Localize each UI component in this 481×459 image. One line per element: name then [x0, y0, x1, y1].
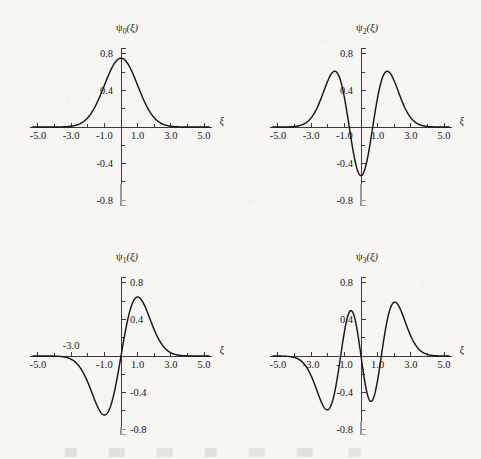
x-axis-label: ξ	[460, 115, 465, 127]
panel-title: ψ1(ξ)	[116, 251, 138, 265]
x-tick-label: -3.0	[63, 340, 80, 351]
x-tick-label: -3.0	[63, 130, 80, 141]
y-tick-label: 0.8	[100, 48, 113, 59]
x-tick-label: 3.0	[404, 130, 417, 141]
plot-panel-psi3: -5.0-3.0-1.01.03.05.0ξ0.80.4-0.4-0.8ψ3(ξ…	[240, 229, 481, 459]
x-tick-label: 3.0	[164, 359, 177, 370]
x-tick-label: 3.0	[164, 130, 177, 141]
x-tick-label: 3.0	[404, 359, 417, 370]
x-tick-label: -1.0	[96, 359, 113, 370]
panel-title: ψ2(ξ)	[356, 22, 378, 36]
x-tick-label: -1.0	[96, 130, 113, 141]
plot-panel-psi1: -5.0-3.0-1.01.03.05.0ξ0.80.4-0.4-0.8ψ1(ξ…	[0, 229, 240, 459]
y-tick-label: -0.4	[336, 158, 353, 169]
x-axis-label: ξ	[220, 344, 225, 356]
x-tick-label: 1.0	[131, 130, 144, 141]
y-tick-label: 0.8	[130, 277, 143, 288]
y-tick-label: -0.4	[130, 387, 147, 398]
x-tick-label: 1.0	[371, 359, 384, 370]
x-tick-label: 5.0	[197, 130, 210, 141]
x-tick-label: -5.0	[270, 130, 287, 141]
x-tick-label: 5.0	[197, 359, 210, 370]
panel-title: ψ0(ξ)	[116, 22, 138, 36]
x-tick-label: -3.0	[303, 130, 320, 141]
y-tick-label: 0.8	[340, 48, 353, 59]
y-tick-label: -0.8	[130, 424, 147, 435]
plot-panel-psi0: -5.0-3.0-1.01.03.05.0ξ0.80.4-0.4-0.8ψ0(ξ…	[0, 0, 240, 229]
y-tick-label: -0.8	[96, 195, 113, 206]
x-tick-label: 5.0	[437, 130, 450, 141]
x-tick-label: 5.0	[437, 359, 450, 370]
x-axis-label: ξ	[220, 115, 225, 127]
x-tick-label: 1.0	[371, 130, 384, 141]
x-tick-label: 1.0	[131, 359, 144, 370]
x-tick-label: -5.0	[270, 359, 287, 370]
wavefunction-figure-grid: -5.0-3.0-1.01.03.05.0ξ0.80.4-0.4-0.8ψ0(ξ…	[0, 0, 481, 459]
y-tick-label: 0.4	[130, 314, 144, 325]
x-tick-label: -5.0	[30, 359, 47, 370]
x-axis-label: ξ	[460, 344, 465, 356]
plot-panel-psi2: -5.0-3.0-1.01.03.05.0ξ0.80.4-0.4-0.8ψ2(ξ…	[240, 0, 481, 229]
x-tick-label: -5.0	[30, 130, 47, 141]
y-tick-label: 0.8	[340, 277, 353, 288]
y-tick-label: -0.8	[336, 424, 353, 435]
panel-title: ψ3(ξ)	[356, 251, 378, 265]
y-tick-label: -0.4	[96, 158, 113, 169]
y-tick-label: -0.8	[336, 195, 353, 206]
y-tick-label: -0.4	[336, 387, 353, 398]
